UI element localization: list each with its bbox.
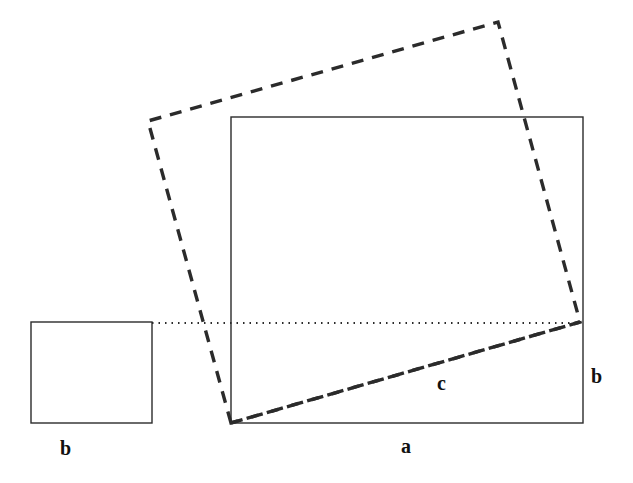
label-a-bottom: a	[401, 436, 411, 456]
label-b-left: b	[60, 438, 71, 458]
large-rectangle	[231, 117, 583, 423]
label-b-right: b	[591, 366, 602, 386]
tilted-dashed-square	[148, 22, 580, 423]
small-square	[31, 322, 152, 423]
figure-svg	[0, 0, 633, 483]
label-c-middle: c	[437, 373, 446, 393]
hypotenuse-segment	[231, 322, 580, 423]
geometry-diagram: b a c b	[0, 0, 633, 483]
